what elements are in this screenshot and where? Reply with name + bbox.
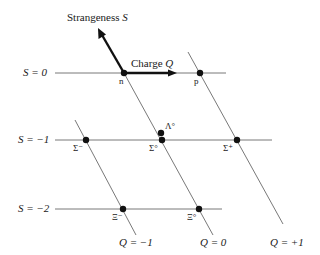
- particle-label-sigma-minus: Σ⁻: [73, 144, 83, 153]
- diagram-canvas: [0, 0, 320, 255]
- particle-dot-lambda-zero: [158, 130, 164, 136]
- particle-label-xi-minus: Ξ⁻: [112, 213, 123, 222]
- strangeness-arrow-icon: [98, 28, 124, 73]
- particle-dot-sigma-plus: [234, 137, 240, 143]
- charge-symbol: Q: [165, 57, 173, 69]
- particle-label-lambda-zero: Λ°: [165, 122, 175, 131]
- particle-dot-sigma-minus: [83, 137, 89, 143]
- row-label-s0: S = 0: [23, 67, 47, 78]
- particle-label-p: p: [194, 77, 199, 86]
- charge-label-q0: Q = 0: [200, 237, 226, 248]
- particle-label-n: n: [119, 77, 124, 86]
- row-label-s-1: S = −1: [18, 134, 49, 145]
- charge-axis-label: Charge Q: [131, 58, 173, 69]
- charge-line-q-1: [75, 120, 136, 235]
- charge-arrow-icon: [124, 70, 177, 77]
- particle-label-sigma-plus: Σ⁺: [223, 144, 233, 153]
- charge-label-q1: Q = +1: [270, 237, 304, 248]
- strangeness-axis-label: Strangeness S: [67, 12, 128, 23]
- particle-dot-xi-zero: [196, 206, 202, 212]
- particle-label-sigma-zero: Σ°: [149, 144, 158, 153]
- particle-dot-sigma-zero: [159, 137, 165, 143]
- charge-label-q-1: Q = −1: [119, 237, 153, 248]
- particle-label-xi-zero: Ξ°: [187, 213, 196, 222]
- row-label-s-2: S = −2: [18, 203, 49, 214]
- strangeness-label-text: Strangeness: [67, 11, 120, 23]
- strangeness-symbol: S: [122, 11, 128, 23]
- charge-label-text: Charge: [131, 57, 163, 69]
